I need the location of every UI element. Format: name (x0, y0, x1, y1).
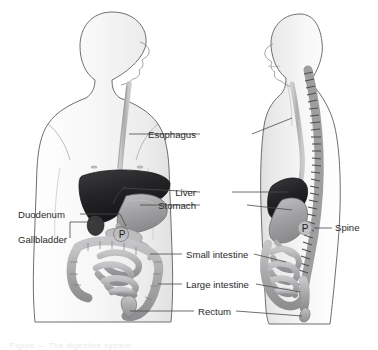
anterior-figure: P (33, 12, 172, 322)
gallbladder-anterior (87, 215, 104, 235)
label-duodenum: Duodenum (18, 209, 65, 220)
label-esophagus: Esophagus (148, 129, 196, 140)
label-spine: Spine (335, 222, 360, 233)
lateral-mouth-line (268, 66, 280, 67)
label-liver: Liver (175, 187, 197, 198)
figure-caption: Figure — The digestive system (10, 341, 132, 350)
nipple-left (91, 166, 97, 169)
label-small-intestine: Small intestine (186, 249, 248, 260)
pancreas-lateral-mark: P (302, 223, 309, 234)
label-rectum: Rectum (198, 306, 231, 317)
label-large-intestine: Large intestine (186, 279, 249, 290)
large-intestine-lateral-descend (303, 280, 305, 308)
lateral-figure: P (261, 14, 341, 324)
label-gallbladder: Gallbladder (18, 234, 68, 245)
pancreas-anterior-mark: P (119, 229, 126, 240)
label-stomach: Stomach (158, 200, 196, 211)
nipple-right (137, 166, 143, 169)
